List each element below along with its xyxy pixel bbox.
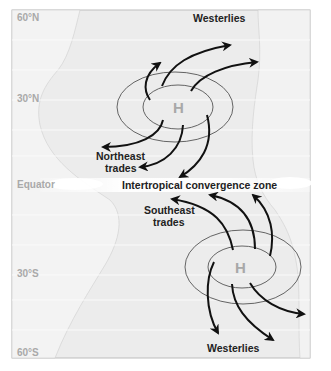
high-pressure-symbol: H xyxy=(235,259,246,276)
westerlies-north-label: Westerlies xyxy=(193,12,245,24)
latitude-label-equator: Equator xyxy=(17,179,55,190)
westerlies-south-label: Westerlies xyxy=(207,342,259,354)
northeast-trades-label-line2: trades xyxy=(105,162,137,174)
wind-circulation-diagram: 60°N 30°N Equator 30°S 60°S H H xyxy=(0,0,331,371)
high-pressure-symbol: H xyxy=(173,99,184,116)
latitude-label-30n: 30°N xyxy=(17,93,39,104)
southeast-trades-label-line2: trades xyxy=(153,216,185,228)
northeast-trades-label-line1: Northeast xyxy=(96,150,146,162)
latitude-label-30s: 30°S xyxy=(17,268,39,279)
southeast-trades-label-line1: Southeast xyxy=(144,204,195,216)
latitude-label-60s: 60°S xyxy=(17,347,39,358)
latitude-label-60n: 60°N xyxy=(17,12,39,23)
itcz-label: Intertropical convergence zone xyxy=(122,179,277,191)
